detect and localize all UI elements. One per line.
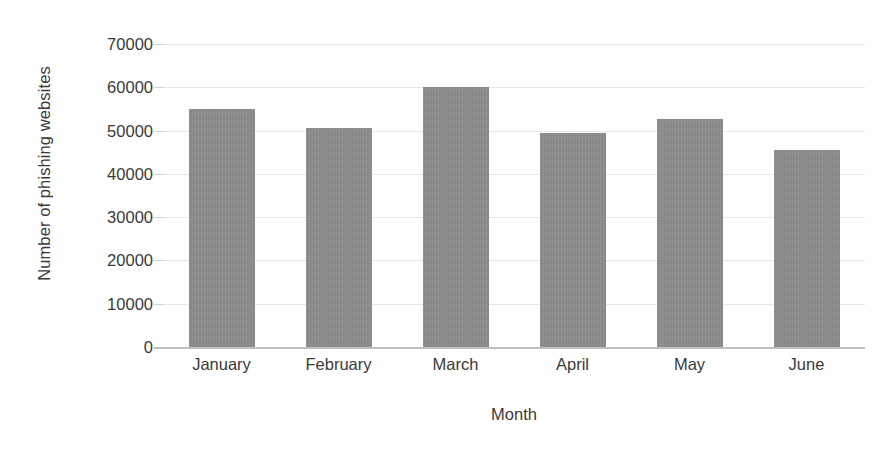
- gridline: [163, 87, 865, 88]
- bar: [423, 87, 489, 347]
- x-axis-tick-label: May: [674, 355, 705, 374]
- bar: [540, 133, 606, 347]
- plot-area: [163, 44, 865, 347]
- gridline: [163, 260, 865, 261]
- bar: [189, 109, 255, 347]
- x-axis-tick-label: April: [556, 355, 589, 374]
- gridline: [163, 304, 865, 305]
- y-axis-tick-label: 60000: [55, 79, 153, 96]
- y-axis-tick-mark: [154, 174, 163, 175]
- gridline: [163, 217, 865, 218]
- y-axis-tick-mark: [154, 260, 163, 261]
- y-axis-tick-mark: [154, 304, 163, 305]
- gridline: [163, 174, 865, 175]
- y-axis-tick-label: 50000: [55, 122, 153, 139]
- x-axis-line: [154, 347, 865, 349]
- bar: [306, 128, 372, 347]
- x-axis-tick-label: February: [305, 355, 371, 374]
- bar-chart: Number of phishing websites 010000200003…: [0, 0, 892, 461]
- y-axis-tick-label: 10000: [55, 295, 153, 312]
- y-axis-tick-mark: [154, 217, 163, 218]
- gridline: [163, 44, 865, 45]
- y-axis-tick-labels: 010000200003000040000500006000070000: [55, 0, 153, 461]
- x-axis-title: Month: [163, 405, 865, 424]
- y-axis-tick-label: 40000: [55, 166, 153, 183]
- x-axis-tick-label: June: [789, 355, 825, 374]
- y-axis-tick-label: 0: [55, 339, 153, 356]
- y-axis-tick-label: 70000: [55, 36, 153, 53]
- y-axis-tick-label: 30000: [55, 209, 153, 226]
- y-axis-tick-mark: [154, 44, 163, 45]
- y-axis-tick-mark: [154, 87, 163, 88]
- bar: [774, 150, 840, 347]
- gridline: [163, 131, 865, 132]
- x-axis-tick-label: January: [192, 355, 251, 374]
- y-axis-tick-mark: [154, 131, 163, 132]
- x-axis-tick-labels: JanuaryFebruaryMarchAprilMayJune: [163, 355, 865, 385]
- bar: [657, 119, 723, 347]
- x-axis-tick-label: March: [433, 355, 479, 374]
- y-axis-tick-label: 20000: [55, 252, 153, 269]
